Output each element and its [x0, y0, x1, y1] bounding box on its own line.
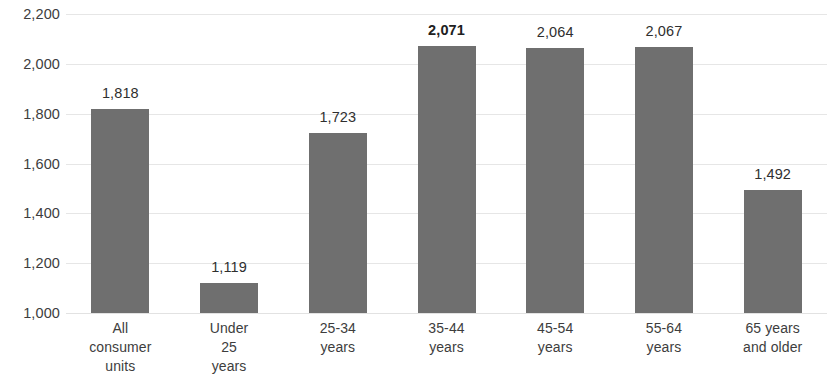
bar-value-label: 1,723: [319, 109, 356, 125]
x-axis-category-label-line: Under: [210, 319, 249, 338]
y-axis: 2,2002,0001,8001,6001,4001,2001,000: [0, 0, 60, 385]
x-axis-category-label-line: years: [646, 338, 682, 357]
x-axis-category-label: Allconsumerunits: [89, 319, 151, 376]
x-axis-labels: AllconsumerunitsUnder25years25-34years35…: [66, 319, 827, 385]
y-tick-label: 1,200: [0, 255, 60, 271]
x-axis-category-label-line: units: [89, 357, 151, 376]
x-axis-category-label-line: 35-44: [428, 319, 464, 338]
bar-value-label: 2,064: [537, 24, 574, 40]
x-axis-category-label-line: years: [428, 338, 464, 357]
bar[interactable]: [635, 47, 693, 313]
x-axis-category-label: 35-44years: [428, 319, 464, 357]
y-tick-label: 2,000: [0, 56, 60, 72]
bar[interactable]: [91, 109, 149, 313]
bar-value-label: 2,071: [428, 22, 465, 38]
bar[interactable]: [744, 190, 802, 313]
bar-chart: 2,2002,0001,8001,6001,4001,2001,000 1,81…: [0, 0, 827, 385]
gridline: [66, 313, 827, 314]
x-axis-category-label: Under25years: [210, 319, 249, 376]
x-axis-category-label-line: years: [537, 338, 573, 357]
y-tick-label: 1,400: [0, 205, 60, 221]
x-axis-category-label-line: years: [210, 357, 249, 376]
x-axis-category-label-line: 45-54: [537, 319, 573, 338]
x-axis-category-label-line: consumer: [89, 338, 151, 357]
bar[interactable]: [200, 283, 258, 313]
x-axis-category-label-line: years: [320, 338, 356, 357]
bar-value-label: 2,067: [646, 23, 683, 39]
bar-value-label: 1,492: [754, 166, 791, 182]
x-axis-category-label-line: All: [89, 319, 151, 338]
plot-area: 1,8181,1191,7232,0712,0642,0671,492: [66, 14, 827, 313]
bar[interactable]: [418, 46, 476, 313]
x-axis-category-label: 55-64years: [646, 319, 682, 357]
x-axis-category-label-line: 55-64: [646, 319, 682, 338]
y-tick-label: 1,000: [0, 305, 60, 321]
y-tick-label: 1,600: [0, 156, 60, 172]
gridline: [66, 14, 827, 15]
y-tick-label: 1,800: [0, 106, 60, 122]
x-axis-category-label-line: 65 years: [743, 319, 802, 338]
x-axis-category-label: 25-34years: [320, 319, 356, 357]
y-tick-label: 2,200: [0, 6, 60, 22]
x-axis-category-label: 65 yearsand older: [743, 319, 802, 357]
bar[interactable]: [309, 133, 367, 313]
x-axis-category-label: 45-54years: [537, 319, 573, 357]
bar[interactable]: [526, 48, 584, 313]
x-axis-category-label-line: 25: [210, 338, 249, 357]
bar-value-label: 1,818: [102, 85, 139, 101]
x-axis-category-label-line: 25-34: [320, 319, 356, 338]
x-axis-category-label-line: and older: [743, 338, 802, 357]
bar-value-label: 1,119: [211, 259, 247, 275]
